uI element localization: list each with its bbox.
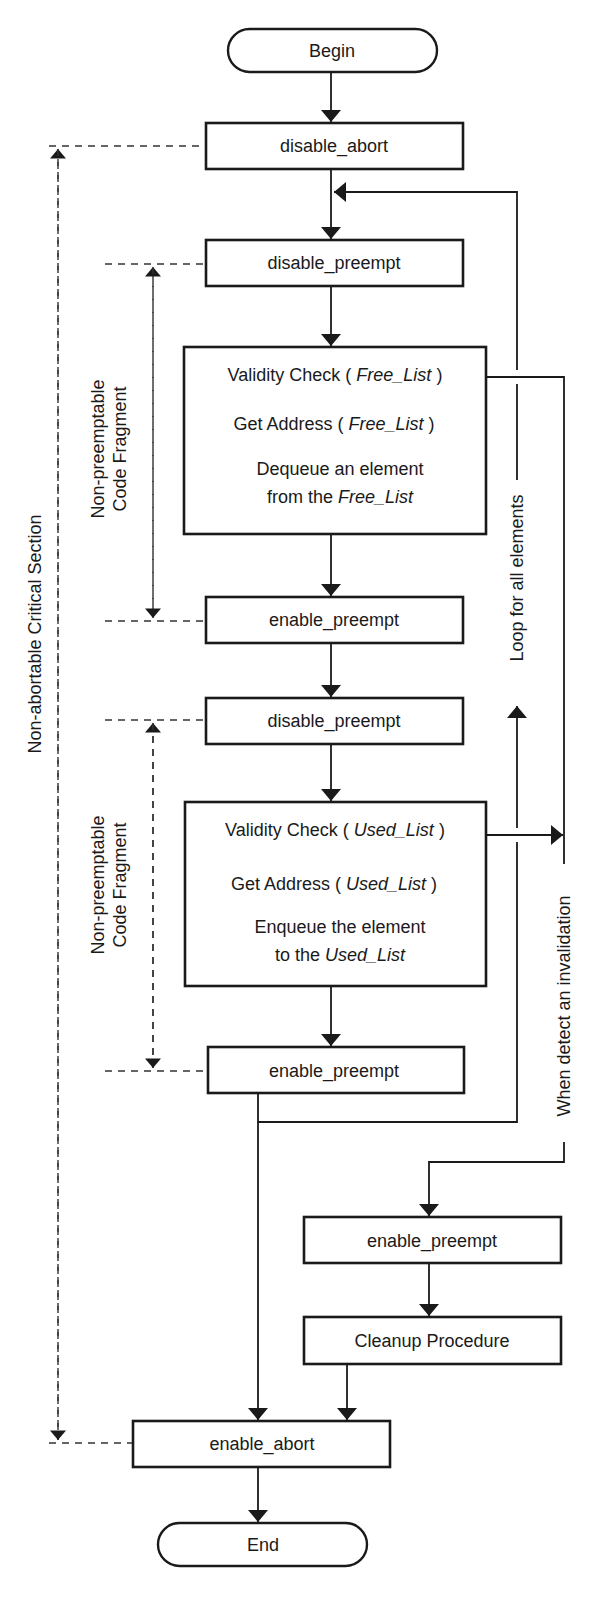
disable-preempt-box-1: disable_preempt — [206, 240, 463, 286]
begin-terminal: Begin — [228, 29, 437, 72]
enable-preempt-2-label: enable_preempt — [269, 1061, 399, 1082]
critical-section-label: Non-abortable Critical Section — [25, 514, 45, 753]
disable-preempt-1-label: disable_preempt — [267, 253, 400, 274]
disable-preempt-2-label: disable_preempt — [267, 711, 400, 732]
fragment-2-label-line2: Code Fragment — [110, 822, 130, 947]
invalidation-to-enable-preempt-3 — [429, 1142, 564, 1216]
free-dequeue-line1: Dequeue an element — [256, 459, 423, 479]
used-get-address: Get Address ( Used_List ) — [231, 874, 437, 894]
free-dequeue-line2: from the Free_List — [267, 487, 414, 507]
disable-abort-box: disable_abort — [206, 123, 463, 169]
dashed-annotations — [49, 146, 207, 1443]
invalidation-label: When detect an invalidation — [554, 895, 574, 1116]
flow-connectors — [258, 72, 564, 1522]
cleanup-procedure-box: Cleanup Procedure — [304, 1317, 561, 1364]
enable-preempt-1-label: enable_preempt — [269, 610, 399, 631]
flowchart-canvas: Begin End disable_abort disable_preempt … — [0, 0, 590, 1601]
fragment-1-label-line1: Non-preemptable — [88, 379, 108, 518]
used-validity-check: Validity Check ( Used_List ) — [225, 820, 445, 840]
end-label: End — [247, 1535, 279, 1555]
free-list-block: Validity Check ( Free_List ) Get Address… — [184, 347, 486, 534]
loop-label: Loop for all elements — [507, 494, 527, 661]
used-enqueue-line2: to the Used_List — [275, 945, 406, 965]
used-enqueue-line1: Enqueue the element — [254, 917, 425, 937]
enable-abort-box: enable_abort — [133, 1421, 390, 1467]
enable-preempt-box-2: enable_preempt — [208, 1047, 464, 1093]
disable-abort-label: disable_abort — [280, 136, 388, 157]
fragment-2-label-line1: Non-preemptable — [88, 815, 108, 954]
enable-preempt-3-label: enable_preempt — [367, 1231, 497, 1252]
used-list-block: Validity Check ( Used_List ) Get Address… — [185, 802, 486, 986]
end-terminal: End — [158, 1523, 367, 1566]
free-get-address: Get Address ( Free_List ) — [233, 414, 434, 434]
enable-preempt-box-1: enable_preempt — [206, 597, 463, 643]
enable-preempt-box-3: enable_preempt — [304, 1217, 561, 1263]
begin-label: Begin — [309, 41, 355, 61]
cleanup-label: Cleanup Procedure — [354, 1331, 509, 1351]
fragment-1-label-line2: Code Fragment — [110, 386, 130, 511]
disable-preempt-box-2: disable_preempt — [206, 698, 463, 744]
free-validity-check: Validity Check ( Free_List ) — [228, 365, 443, 385]
enable-abort-label: enable_abort — [209, 1434, 314, 1455]
